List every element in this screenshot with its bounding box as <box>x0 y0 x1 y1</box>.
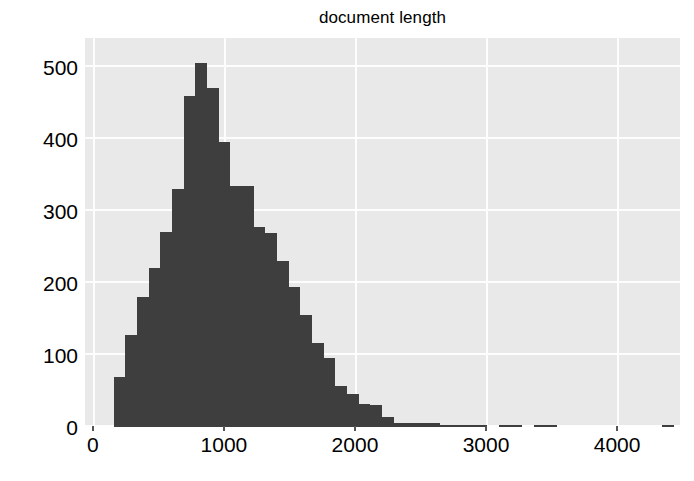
histogram-bar <box>662 425 674 427</box>
y-axis-tick-label-300: 300 <box>8 201 78 222</box>
histogram-bar <box>394 423 406 427</box>
x-axis-tick-mark-3000 <box>485 426 487 431</box>
histogram-bar <box>114 377 126 427</box>
histogram-bar <box>137 297 149 427</box>
histogram-bar <box>382 417 394 427</box>
histogram-bar <box>289 287 301 427</box>
histogram-bar <box>359 404 371 427</box>
histogram-bar <box>347 394 359 427</box>
histogram-bar <box>254 227 266 427</box>
histogram-bar <box>370 405 382 427</box>
histogram-bar <box>452 425 464 427</box>
y-axis: 0100200300400500 <box>0 38 78 427</box>
x-axis-tick-mark-1000 <box>223 426 225 431</box>
x-axis-tick-label-1000: 1000 <box>179 434 269 455</box>
histogram-bar <box>405 423 417 427</box>
y-axis-tick-label-100: 100 <box>8 345 78 366</box>
histogram-figure: document length 0100200300400500 0100020… <box>0 0 694 481</box>
histogram-bar <box>265 233 277 428</box>
histogram-bar <box>172 189 184 427</box>
histogram-bar <box>195 63 207 427</box>
y-axis-tick-label-500: 500 <box>8 57 78 78</box>
y-axis-tick-label-200: 200 <box>8 273 78 294</box>
histogram-bar <box>160 232 172 427</box>
histogram-bar <box>440 425 452 427</box>
histogram-bar <box>300 315 312 427</box>
x-axis-tick-label-0: 0 <box>48 434 138 455</box>
histogram-bar <box>125 335 137 427</box>
histogram-bar <box>184 96 196 427</box>
x-axis-tick-mark-2000 <box>354 426 356 431</box>
histogram-bar <box>207 88 219 427</box>
histogram-bars <box>85 38 680 427</box>
x-axis-tick-mark-0 <box>92 426 94 431</box>
histogram-bar <box>510 425 522 427</box>
histogram-bar <box>230 186 242 427</box>
histogram-bar <box>219 142 231 427</box>
histogram-bar <box>464 425 476 427</box>
x-axis-tick-label-3000: 3000 <box>441 434 531 455</box>
x-axis-tick-mark-4000 <box>616 426 618 431</box>
histogram-bar <box>534 425 546 427</box>
x-axis: 01000200030004000 <box>85 434 680 464</box>
histogram-bar <box>429 423 441 427</box>
histogram-bar <box>335 386 347 427</box>
histogram-bar <box>149 268 161 427</box>
chart-title: document length <box>85 8 680 28</box>
y-axis-tick-label-400: 400 <box>8 129 78 150</box>
x-axis-tick-label-2000: 2000 <box>310 434 400 455</box>
histogram-bar <box>324 358 336 427</box>
histogram-bar <box>312 343 324 427</box>
histogram-bar <box>545 425 557 427</box>
histogram-bar <box>499 425 511 427</box>
plot-area <box>85 38 680 427</box>
x-axis-tick-label-4000: 4000 <box>572 434 662 455</box>
histogram-bar <box>417 423 429 427</box>
histogram-bar <box>242 186 254 427</box>
histogram-bar <box>277 261 289 427</box>
